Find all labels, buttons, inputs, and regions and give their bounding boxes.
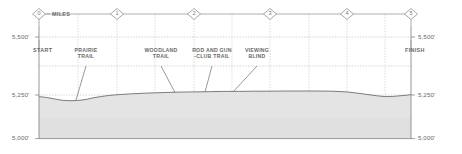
y-axis-right-label-bottom: 5,000' xyxy=(418,135,435,142)
elevation-lower-haze xyxy=(39,118,411,138)
finish-label: FINISH xyxy=(405,47,425,53)
poi-prairie-line2: TRAIL xyxy=(78,53,95,59)
elevation-profile-chart: 0 1 2 3 4 5 MILES 5,500' 5,250' 5,000' 5… xyxy=(0,0,462,154)
y-axis-left-label-mid: 5,250' xyxy=(12,92,29,99)
poi-rodgun-line2: -CLUB TRAIL xyxy=(194,53,230,59)
mile-marker-label-2[interactable]: 2 xyxy=(187,11,201,17)
poi-woodland-line2: TRAIL xyxy=(153,53,170,59)
poi-label-woodland-trail: WOODLAND TRAIL xyxy=(135,47,187,60)
poi-woodland-line1: WOODLAND xyxy=(144,47,177,53)
start-label: START xyxy=(33,47,52,53)
y-axis-right-label-top: 5,500' xyxy=(418,34,435,41)
mile-marker-label-0[interactable]: 0 xyxy=(32,11,46,17)
poi-rodgun-line1: ROD AND GUN xyxy=(192,47,232,53)
y-axis-right-label-mid: 5,250' xyxy=(418,92,435,99)
poi-label-rod-and-gun-club-trail: ROD AND GUN -CLUB TRAIL xyxy=(185,47,239,60)
y-axis-left-label-bottom: 5,000' xyxy=(12,135,29,142)
elevation-profile-svg xyxy=(0,0,462,154)
poi-prairie-line1: PRAIRIE xyxy=(75,47,98,53)
x-axis-label-miles: MILES xyxy=(52,11,70,17)
mile-marker-label-5[interactable]: 5 xyxy=(404,11,418,17)
poi-label-prairie-trail: PRAIRIE TRAIL xyxy=(66,47,106,60)
mile-marker-label-4[interactable]: 4 xyxy=(340,11,354,17)
mile-marker-label-3[interactable]: 3 xyxy=(263,11,277,17)
poi-viewing-line2: BLIND xyxy=(248,53,265,59)
poi-viewing-line1: VIEWING xyxy=(245,47,269,53)
poi-label-viewing-blind: VIEWING BLIND xyxy=(234,47,280,60)
y-axis-left-label-top: 5,500' xyxy=(12,34,29,41)
mile-marker-label-1[interactable]: 1 xyxy=(110,11,124,17)
